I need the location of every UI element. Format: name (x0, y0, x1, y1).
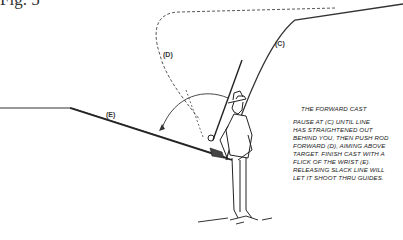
rotation-arc (162, 94, 228, 128)
label-d: (D) (163, 51, 173, 58)
angler-figure (220, 91, 252, 218)
rod-forward (70, 108, 232, 160)
line-d-guide (186, 90, 203, 137)
caption-body: PAUSE AT (C) UNTIL LINE HAS STRAIGHTENED… (293, 118, 403, 182)
label-c: (C) (275, 40, 285, 47)
caption-title: THE FORWARD CAST (301, 105, 403, 113)
reel (210, 148, 224, 158)
label-e: (E) (106, 111, 115, 118)
ground (198, 216, 272, 224)
arc-arrowhead (159, 124, 165, 131)
caption: THE FORWARD CAST PAUSE AT (C) UNTIL LINE… (293, 105, 403, 182)
